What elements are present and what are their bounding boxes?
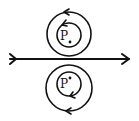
top-outer-field-line: [47, 12, 91, 56]
bottom-point-label: P: [60, 77, 68, 91]
top-field-loops: [47, 9, 91, 56]
bottom-point-dot: [69, 77, 72, 80]
bottom-field-loops: [46, 65, 92, 114]
bottom-point-p: P: [60, 77, 71, 91]
top-point-dot: [69, 41, 72, 44]
top-point-label: P: [60, 29, 68, 43]
top-point-p: P: [60, 29, 71, 43]
magnetic-field-diagram: P P: [0, 0, 139, 121]
